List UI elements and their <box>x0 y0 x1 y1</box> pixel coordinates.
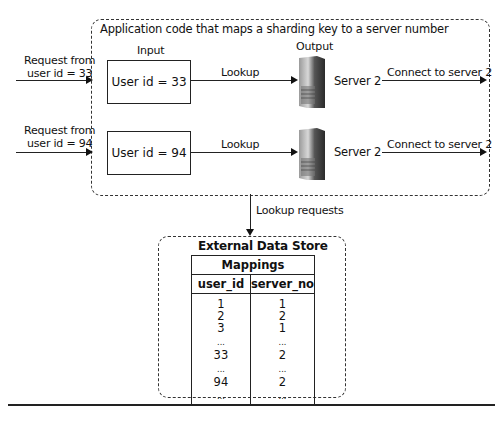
table-row: 31 <box>192 322 315 334</box>
application-code-title: Application code that maps a sharding ke… <box>100 22 448 36</box>
column-header-server-no: server_no <box>250 275 314 294</box>
cell: 1 <box>250 322 314 334</box>
table-row: 942 <box>192 376 315 388</box>
bottom-divider <box>8 404 495 406</box>
server-icon <box>299 128 325 180</box>
cell: ... <box>192 361 251 376</box>
request-label-line1: Request from <box>24 54 95 67</box>
input-box-text: User id = 33 <box>111 75 186 89</box>
arrow-head-icon <box>86 76 93 84</box>
connect-arrow-33 <box>382 80 482 81</box>
cell: ... <box>192 334 251 349</box>
connect-label-94: Connect to server 2 <box>387 138 492 151</box>
table-row: ...... <box>192 361 315 376</box>
column-header-user-id: user_id <box>192 275 251 294</box>
cell: 33 <box>192 349 251 361</box>
server-icon <box>299 56 325 108</box>
output-label: Output <box>296 40 333 53</box>
request-label-33: Request from user id = 33 <box>24 54 95 80</box>
table-row: ...... <box>192 388 315 406</box>
cell: 1 <box>250 294 314 311</box>
arrow-head-icon <box>480 76 487 84</box>
table-row: ...... <box>192 334 315 349</box>
mappings-title: Mappings <box>192 256 315 275</box>
request-label-94: Request from user id = 94 <box>24 124 95 150</box>
cell: 2 <box>250 349 314 361</box>
input-label: Input <box>137 44 164 57</box>
lookup-label-94: Lookup <box>221 138 259 151</box>
lookup-arrow-94 <box>191 152 293 153</box>
request-label-line2: user id = 94 <box>24 137 95 150</box>
mappings-table: Mappings user_id server_no 11 22 31 ....… <box>191 255 315 406</box>
cell: 1 <box>192 294 251 311</box>
arrow-head-icon <box>291 76 298 84</box>
lookup-label-33: Lookup <box>221 66 259 79</box>
lookup-requests-label: Lookup requests <box>256 204 343 217</box>
lookup-requests-arrow <box>250 194 251 231</box>
table-row: 11 <box>192 294 315 311</box>
server-label-94: Server 2 <box>334 145 381 159</box>
cell: ... <box>192 388 251 406</box>
input-box-user-94: User id = 94 <box>107 131 191 175</box>
arrow-head-icon <box>246 229 254 236</box>
lookup-arrow-33 <box>191 80 293 81</box>
request-label-line2: user id = 33 <box>24 67 95 80</box>
input-box-text: User id = 94 <box>111 146 186 160</box>
table-row: 22 <box>192 310 315 322</box>
request-arrow-33 <box>16 80 88 81</box>
request-label-line1: Request from <box>24 124 95 137</box>
arrow-head-icon <box>291 148 298 156</box>
cell: ... <box>250 334 314 349</box>
arrow-head-icon <box>86 148 93 156</box>
cell: 3 <box>192 322 251 334</box>
cell: 2 <box>250 376 314 388</box>
cell: ... <box>250 361 314 376</box>
server-label-33: Server 2 <box>334 74 381 88</box>
arrow-head-icon <box>480 148 487 156</box>
request-arrow-94 <box>16 152 88 153</box>
cell: 94 <box>192 376 251 388</box>
connect-label-33: Connect to server 2 <box>387 66 492 79</box>
data-store-title: External Data Store <box>198 239 328 253</box>
input-box-user-33: User id = 33 <box>107 60 191 104</box>
connect-arrow-94 <box>382 152 482 153</box>
table-row: 332 <box>192 349 315 361</box>
cell: ... <box>250 388 314 406</box>
